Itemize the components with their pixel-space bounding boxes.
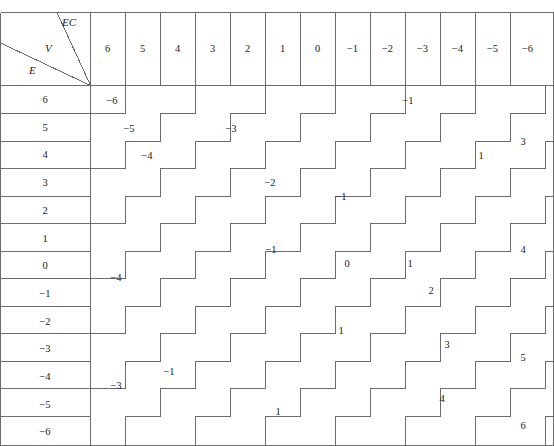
band-label-21: 5 (520, 352, 525, 363)
band-label-13: −1 (163, 366, 174, 377)
column-header-12: −6 (510, 43, 545, 54)
corner-label-ec: EC (62, 16, 76, 28)
column-header-2: 4 (160, 43, 195, 54)
row-header-1: 5 (0, 122, 90, 133)
column-header-9: −3 (405, 43, 440, 54)
column-header-0: 6 (90, 43, 125, 54)
column-header-10: −4 (440, 43, 475, 54)
column-header-4: 2 (230, 43, 265, 54)
column-header-5: 1 (265, 43, 300, 54)
column-header-8: −2 (370, 43, 405, 54)
band-label-14: −4 (110, 272, 121, 283)
row-header-12: −6 (0, 426, 90, 437)
band-label-5: −1 (402, 95, 413, 106)
column-header-3: 3 (195, 43, 230, 54)
band-label-8: 0 (344, 258, 349, 269)
band-label-1: −5 (123, 123, 134, 134)
row-header-4: 2 (0, 205, 90, 216)
row-header-7: −1 (0, 288, 90, 299)
band-label-19: 1 (275, 406, 280, 417)
band-label-15: −3 (110, 380, 121, 391)
band-label-9: 1 (407, 258, 412, 269)
band-label-3: −3 (225, 123, 236, 134)
band-label-17: 3 (444, 339, 449, 350)
band-label-20: 4 (439, 393, 444, 404)
row-header-2: 4 (0, 149, 90, 160)
band-label-6: −1 (265, 244, 276, 255)
band-label-16: 1 (338, 325, 343, 336)
band-label-22: 6 (520, 420, 525, 431)
row-header-5: 1 (0, 233, 90, 244)
corner-label-v: V (45, 42, 52, 54)
row-header-3: 3 (0, 177, 90, 188)
column-header-1: 5 (125, 43, 160, 54)
row-header-0: 6 (0, 94, 90, 105)
row-header-11: −5 (0, 399, 90, 410)
band-label-0: −6 (106, 95, 117, 106)
row-header-9: −3 (0, 343, 90, 354)
band-label-11: 3 (520, 136, 525, 147)
row-header-6: 0 (0, 260, 90, 271)
table-figure: EC V E 6543210−1−2−3−4−5−6 6543210−1−2−3… (0, 0, 554, 446)
column-header-6: 0 (300, 43, 335, 54)
band-label-7: −1 (335, 191, 346, 202)
band-label-18: 4 (520, 244, 525, 255)
corner-label-e: E (29, 64, 36, 76)
band-label-4: −2 (264, 177, 275, 188)
row-header-10: −4 (0, 371, 90, 382)
column-header-7: −1 (335, 43, 370, 54)
band-label-12: 2 (428, 285, 433, 296)
band-label-10: 1 (478, 150, 483, 161)
column-header-11: −5 (475, 43, 510, 54)
row-header-8: −2 (0, 316, 90, 327)
band-label-2: −4 (141, 150, 152, 161)
